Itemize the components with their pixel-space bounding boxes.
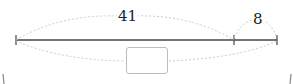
answer-input-box[interactable] [126,47,168,74]
lower-brace-left [16,41,125,61]
bottom-left-mark [3,74,4,84]
upper-left-brace-right [133,16,234,40]
label-8: 8 [252,12,264,27]
upper-right-brace-right [262,20,277,38]
bottom-right-mark [290,74,291,84]
label-41: 41 [117,9,138,24]
upper-right-brace [234,20,252,38]
lower-brace-right [169,41,277,61]
upper-left-brace [16,16,118,40]
